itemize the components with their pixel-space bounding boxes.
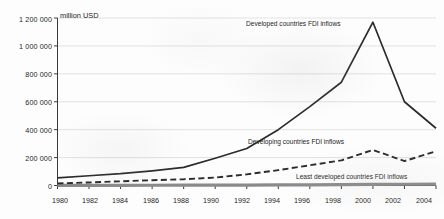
x-tick-label-1986: 1986 [135, 196, 167, 205]
y-tick-label-200000: 200 000 [4, 154, 52, 163]
y-tick-label-600000: 600 000 [4, 98, 52, 107]
y-tick-label-1000000: 1 000 000 [4, 42, 52, 51]
fdi-inflows-chart-figure: million USD 1 200 000 1 000 000 800 000 … [0, 0, 444, 219]
annotation-developing-countries: Developing countries FDI inflows [248, 138, 344, 145]
annotation-least-developed-countries: Least developed countries FDI inflows [296, 173, 407, 180]
x-tick-label-1984: 1984 [104, 196, 136, 205]
x-tick-label-1998: 1998 [317, 196, 349, 205]
annotation-developed-countries: Developed countries FDI inflows [246, 20, 341, 27]
y-tick-label-0: 0 [4, 182, 52, 191]
y-tick-label-400000: 400 000 [4, 126, 52, 135]
x-tick-label-1992: 1992 [226, 196, 258, 205]
plot-area [0, 0, 444, 219]
x-tick-label-1982: 1982 [74, 196, 106, 205]
x-tick-label-2000: 2000 [347, 196, 379, 205]
x-tick-label-1996: 1996 [286, 196, 318, 205]
x-tick-label-1988: 1988 [165, 196, 197, 205]
y-axis-unit-label: million USD [60, 11, 99, 20]
y-tick-label-800000: 800 000 [4, 70, 52, 79]
y-axis-tick-marks [54, 18, 58, 186]
x-tick-label-1994: 1994 [256, 196, 288, 205]
y-tick-label-1200000: 1 200 000 [4, 15, 52, 24]
x-tick-label-1980: 1980 [44, 196, 76, 205]
series-line-least-developed-countries [58, 184, 437, 185]
series-line-developed-countries [58, 22, 437, 178]
x-tick-label-2004: 2004 [408, 196, 440, 205]
x-tick-label-2002: 2002 [377, 196, 409, 205]
x-tick-label-1990: 1990 [195, 196, 227, 205]
